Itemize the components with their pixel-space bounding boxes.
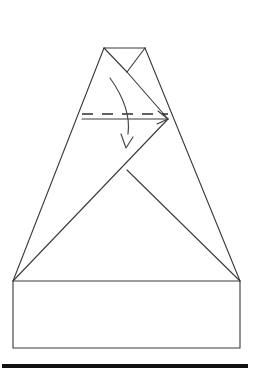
paper-background: [0, 0, 274, 374]
fold-diagram-svg: [0, 0, 274, 374]
bottom-solid-bar: [2, 364, 248, 368]
diagram-root: Paper folding step diagram Line drawing …: [0, 0, 274, 374]
